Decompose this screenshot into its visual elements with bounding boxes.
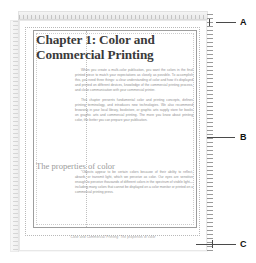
horizontal-ruler-ticks: [19, 12, 207, 19]
body-paragraph: When you create a multi-color publicatio…: [75, 68, 193, 93]
body-paragraph: This chapter presents fundamental color …: [75, 98, 193, 123]
page-title-line-1: Chapter 1: Color and: [36, 33, 186, 48]
document-page[interactable]: Chapter 1: Color and Commercial Printing…: [19, 20, 207, 251]
right-vertical-ruler[interactable]: [207, 14, 215, 252]
page-title-line-2: Commercial Printing: [36, 48, 186, 63]
callout-b-leader-line: [207, 137, 235, 138]
vertical-ruler[interactable]: [10, 20, 19, 252]
callout-c-leader-tick: [212, 240, 213, 248]
page-footer: Color and Commercial Printing: The prope…: [20, 235, 206, 239]
right-vertical-ruler-ticks: [207, 14, 215, 252]
application-canvas: Chapter 1: Color and Commercial Printing…: [0, 0, 256, 263]
callout-c-label: C: [240, 239, 247, 249]
callout-c-leader-line: [196, 244, 236, 245]
body-column-top: When you create a multi-color publicatio…: [75, 68, 193, 128]
page-title: Chapter 1: Color and Commercial Printing: [36, 33, 186, 62]
callout-a-leader-line: [216, 22, 236, 23]
horizontal-ruler[interactable]: [18, 11, 208, 20]
callout-a-label: A: [240, 17, 247, 27]
callout-a-leader-tick: [209, 19, 210, 26]
vertical-ruler-ticks: [11, 21, 18, 251]
callout-b-label: B: [240, 132, 247, 142]
body-paragraph: "Objects appear to be certain colors bec…: [75, 170, 193, 195]
body-column-bottom: "Objects appear to be certain colors bec…: [75, 170, 193, 200]
